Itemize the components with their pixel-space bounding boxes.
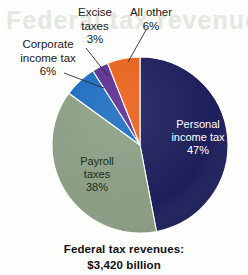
slice-value-payroll-taxes: 38% [58,181,136,194]
chart-caption-line2: $3,420 billion [0,258,248,274]
slice-label-personal-income-tax-line1: Personal [156,118,240,131]
slice-label-personal-income-tax: Personal income tax 47% [156,118,240,157]
slice-value-corporate-income-tax: 6% [2,65,94,79]
slice-label-payroll-taxes: Payroll taxes 38% [58,155,136,194]
pie-chart-figure: Federal tax revenues Corporate income ta… [0,0,248,275]
slice-value-all-other: 6% [110,20,192,34]
slice-value-personal-income-tax: 47% [156,144,240,157]
slice-label-all-other: All other 6% [110,6,192,33]
slice-label-corporate-income-tax-line2: income tax [2,52,94,66]
slice-label-payroll-taxes-line2: taxes [58,168,136,181]
chart-caption: Federal tax revenues: $3,420 billion [0,242,248,273]
slice-value-excise-taxes: 3% [64,33,126,47]
slice-label-personal-income-tax-line2: income tax [156,131,240,144]
chart-caption-line1: Federal tax revenues: [0,242,248,258]
slice-label-all-other-line1: All other [110,6,192,20]
slice-label-payroll-taxes-line1: Payroll [58,155,136,168]
